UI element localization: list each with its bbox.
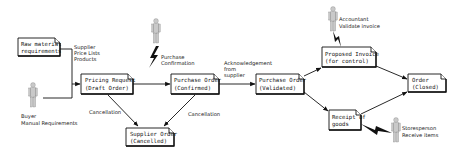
actor-accountant: Accountant Validate invoice: [329, 7, 380, 47]
svg-text:Receipt of: Receipt of: [332, 114, 366, 121]
lightning-bolt-icon: [333, 31, 341, 47]
edge-invoice-to-closed: [376, 66, 407, 79]
person-icon: [329, 7, 337, 31]
svg-text:requirements: requirements: [21, 48, 61, 55]
svg-text:Supplier Order: Supplier Order: [130, 131, 178, 138]
svg-text:Products: Products: [74, 56, 97, 62]
edge-validated-to-invoice: [304, 68, 321, 76]
svg-text:Storesperson: Storesperson: [402, 125, 436, 132]
workflow-diagram: Raw material requirements Pricing Reques…: [0, 0, 458, 158]
person-icon: [392, 118, 400, 142]
edge-buyer-to-pricing: [43, 84, 72, 98]
node-purchase-order-confirmed: Purchase Order (Confirmed): [171, 74, 222, 94]
svg-text:Pricing Request: Pricing Request: [85, 77, 136, 84]
svg-text:(for control): (for control): [325, 58, 369, 64]
svg-text:supplier: supplier: [224, 72, 246, 79]
svg-text:Receive items: Receive items: [402, 132, 439, 138]
label-cancellation-right: Cancellation: [188, 111, 220, 117]
svg-text:goods: goods: [332, 121, 349, 128]
node-pricing-request: Pricing Request (Draft Order): [81, 74, 136, 94]
svg-text:Confirmation: Confirmation: [161, 60, 195, 66]
edge-validated-to-receipt: [304, 92, 328, 111]
label-cancellation-left: Cancellation: [89, 109, 121, 115]
actor-purchaser: [149, 19, 160, 68]
svg-text:Purchase Order: Purchase Order: [259, 77, 307, 83]
edge-receipt-to-closed: [361, 92, 407, 114]
svg-text:(Cancelled): (Cancelled): [130, 138, 167, 144]
label-purchase-confirmation: Purchase Confirmation: [161, 54, 195, 66]
svg-text:Validate invoice: Validate invoice: [339, 23, 380, 29]
node-supplier-order-cancelled: Supplier Order (Cancelled): [126, 128, 178, 146]
person-icon: [29, 83, 37, 107]
svg-text:Purchase Order: Purchase Order: [174, 77, 222, 83]
node-purchase-order-validated: Purchase Order (Validated): [256, 74, 307, 94]
node-proposed-invoice: Proposed Invoice (for control): [322, 47, 380, 67]
svg-text:(Closed): (Closed): [412, 84, 439, 90]
node-receipt-of-goods: Receipt of goods: [329, 110, 366, 130]
actor-buyer: Buyer Manual Requirements: [21, 83, 78, 127]
svg-text:Buyer: Buyer: [21, 113, 37, 120]
svg-text:Accountant: Accountant: [339, 16, 368, 22]
svg-text:Order: Order: [412, 77, 429, 83]
lightning-bolt-icon: [149, 46, 159, 68]
svg-text:Manual Requirements: Manual Requirements: [21, 120, 78, 127]
actor-storesperson: Storesperson Receive items: [361, 118, 439, 142]
svg-text:(Draft Order): (Draft Order): [85, 85, 129, 91]
person-icon: [152, 19, 160, 43]
lightning-bolt-icon: [361, 124, 392, 135]
svg-text:(Validated): (Validated): [259, 85, 296, 91]
svg-text:Proposed Invoice: Proposed Invoice: [325, 51, 380, 58]
node-raw-material-requirements: Raw material requirements: [18, 38, 61, 56]
svg-text:Raw material: Raw material: [21, 41, 61, 47]
svg-text:(Confirmed): (Confirmed): [174, 85, 211, 91]
label-supplier-info: Supplier Price Lists Products: [74, 44, 100, 62]
node-order-closed: Order (Closed): [408, 74, 446, 92]
